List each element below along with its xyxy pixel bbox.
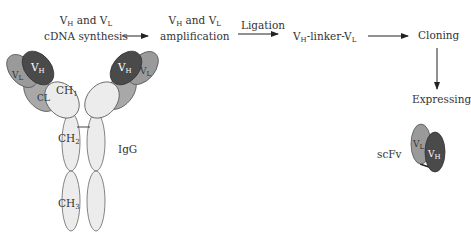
label-vh-left: VH [31, 61, 45, 77]
label-vl-left: VL [12, 69, 23, 84]
label-cl: CL [37, 92, 50, 104]
and-text: and V [73, 14, 107, 26]
label-vl-right: VL [140, 65, 151, 80]
v-text: V [293, 30, 301, 42]
label-ch1: CH1 [56, 84, 78, 100]
cdna-synthesis-text: cDNA synthesis [44, 30, 128, 42]
subscript: L [147, 70, 152, 78]
label-igg: IgG [118, 143, 137, 155]
label-vh-right: VH [118, 61, 132, 77]
subscript: L [216, 20, 221, 28]
subscript: 2 [75, 138, 79, 146]
subscript: 1 [73, 90, 77, 98]
ch-text: CH [56, 84, 73, 96]
ch-text: CH [58, 197, 75, 209]
step-expressing: Expressing [412, 93, 471, 105]
linker-text: -linker-V [307, 30, 352, 42]
subscript: 3 [75, 203, 79, 211]
label-scfv-vh: VH [428, 148, 441, 163]
label-ch2: CH2 [58, 132, 80, 148]
amplification-text: amplification [160, 30, 229, 42]
step-vh-linker-vl: VH-linker-VL [293, 30, 356, 46]
step-ligation: Ligation [241, 19, 285, 31]
ch-text: CH [58, 132, 75, 144]
subscript: L [107, 20, 112, 28]
subscript: L [352, 36, 357, 44]
v-text: V [31, 61, 39, 73]
subscript: H [435, 153, 441, 161]
label-scfv: scFv [377, 148, 402, 160]
step-cloning: Cloning [418, 29, 459, 41]
label-scfv-vl: VL [413, 138, 424, 153]
subscript: L [19, 74, 24, 82]
subscript: H [126, 67, 132, 75]
and-text: and V [182, 14, 216, 26]
step-amplification: VH and VL amplification [160, 14, 229, 42]
v-text: V [118, 61, 126, 73]
label-ch3: CH3 [58, 197, 80, 213]
step-cdna-synthesis: VH and VL cDNA synthesis [44, 14, 128, 42]
ch2-domain-right [87, 113, 105, 171]
ch3-domain-right [87, 171, 105, 231]
vh-label: V [169, 14, 177, 26]
subscript: H [39, 67, 45, 75]
subscript: L [420, 143, 425, 151]
